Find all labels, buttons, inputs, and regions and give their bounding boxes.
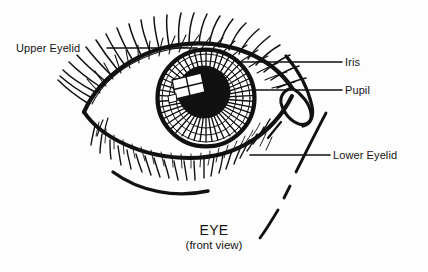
caption-subtitle: (front view) — [0, 238, 428, 252]
eye-diagram-canvas: Upper Eyelid Iris Pupil Lower Eyelid EYE… — [0, 0, 428, 272]
lower-eyelid-crease-arc — [113, 172, 208, 194]
label-upper-eyelid: Upper Eyelid — [16, 42, 80, 54]
label-lower-eyelid: Lower Eyelid — [333, 149, 397, 161]
nose-bridge-contour — [260, 113, 326, 238]
secondary-glint — [168, 94, 177, 103]
label-pupil: Pupil — [345, 84, 370, 96]
figure-caption: EYE (front view) — [0, 222, 428, 252]
label-iris: Iris — [345, 56, 360, 68]
caption-title: EYE — [0, 222, 428, 238]
